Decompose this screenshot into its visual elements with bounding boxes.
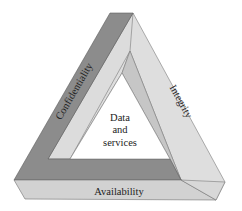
center-label-line1: Data bbox=[110, 112, 130, 123]
cia-triad-diagram: Confidentiality Integrity Availability D… bbox=[0, 0, 242, 211]
center-label-line2: and bbox=[112, 124, 128, 135]
availability-label: Availability bbox=[94, 186, 144, 197]
center-label-line3: services bbox=[103, 137, 137, 148]
